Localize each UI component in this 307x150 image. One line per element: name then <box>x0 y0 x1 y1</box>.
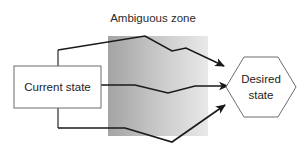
ambiguous-zone-diagram: Ambiguous zone Current state Desired sta… <box>0 0 307 150</box>
desired-state-node[interactable] <box>226 57 296 117</box>
zone-title: Ambiguous zone <box>110 12 196 24</box>
desired-state-label-line2: state <box>249 89 274 101</box>
diagram-canvas: Ambiguous zone Current state Desired sta… <box>0 0 307 150</box>
desired-state-label-line1: Desired <box>241 73 281 85</box>
current-state-label: Current state <box>24 81 90 93</box>
